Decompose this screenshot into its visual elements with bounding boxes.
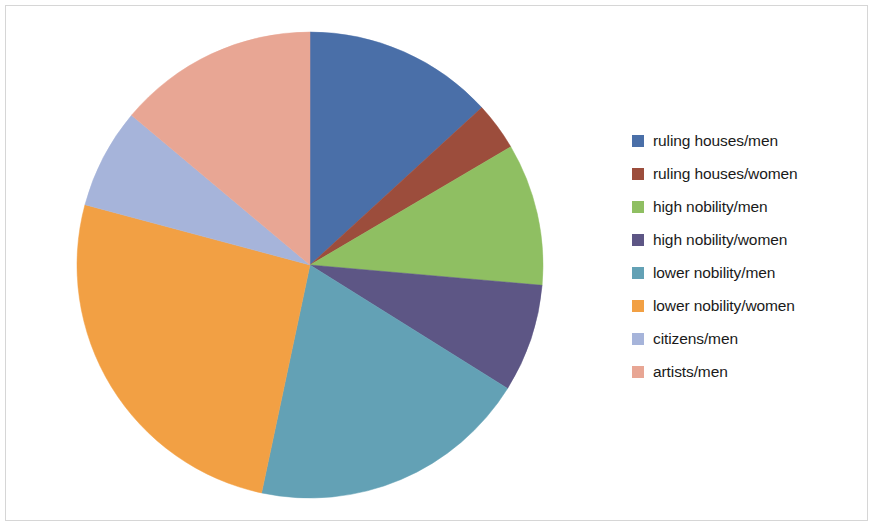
legend-swatch-icon <box>632 168 644 180</box>
legend-item[interactable]: lower nobility/men <box>632 256 857 289</box>
legend-item-label: lower nobility/women <box>653 298 795 314</box>
legend-item[interactable]: ruling houses/men <box>632 124 857 157</box>
legend-item-label: ruling houses/women <box>653 166 798 182</box>
legend-item[interactable]: lower nobility/women <box>632 289 857 322</box>
chart-legend: ruling houses/menruling houses/womenhigh… <box>632 124 857 388</box>
legend-item[interactable]: artists/men <box>632 355 857 388</box>
legend-swatch-icon <box>632 333 644 345</box>
legend-item[interactable]: high nobility/women <box>632 223 857 256</box>
legend-item[interactable]: ruling houses/women <box>632 157 857 190</box>
legend-swatch-icon <box>632 135 644 147</box>
legend-item-label: artists/men <box>653 364 728 380</box>
legend-swatch-icon <box>632 234 644 246</box>
legend-item-label: lower nobility/men <box>653 265 775 281</box>
legend-swatch-icon <box>632 300 644 312</box>
pie-slices-group <box>77 32 543 498</box>
legend-item-label: ruling houses/men <box>653 133 778 149</box>
legend-item[interactable]: citizens/men <box>632 322 857 355</box>
legend-swatch-icon <box>632 366 644 378</box>
legend-item-label: high nobility/men <box>653 199 768 215</box>
legend-item[interactable]: high nobility/men <box>632 190 857 223</box>
legend-swatch-icon <box>632 201 644 213</box>
legend-item-label: citizens/men <box>653 331 738 347</box>
legend-item-label: high nobility/women <box>653 232 787 248</box>
chart-page: ruling houses/menruling houses/womenhigh… <box>0 0 874 527</box>
legend-swatch-icon <box>632 267 644 279</box>
